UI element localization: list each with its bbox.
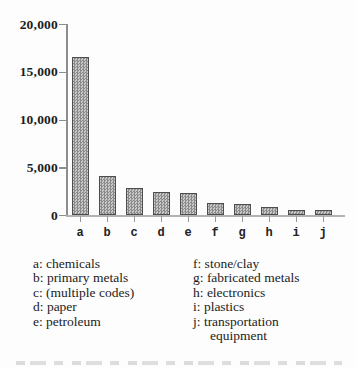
x-tick-d xyxy=(161,216,162,222)
y-tick-label-1: 5,000 xyxy=(0,160,58,175)
x-tick-a xyxy=(80,216,81,222)
x-category-label-c: c xyxy=(124,226,144,240)
x-category-label-d: d xyxy=(151,226,171,240)
bar-e xyxy=(180,193,197,215)
x-tick-f xyxy=(215,216,216,222)
legend-column-left: a: chemicals b: primary metals c: (multi… xyxy=(33,257,134,329)
x-tick-i xyxy=(296,216,297,222)
y-tick-2 xyxy=(59,120,66,121)
y-tick-1 xyxy=(59,167,66,168)
x-tick-g xyxy=(242,216,243,222)
plot-area: abcdefghij xyxy=(66,24,345,215)
x-tick-c xyxy=(134,216,135,222)
x-tick-b xyxy=(107,216,108,222)
y-tick-label-0: 0 xyxy=(0,208,58,223)
bar-a xyxy=(72,57,89,215)
y-tick-label-2: 10,000 xyxy=(0,112,58,127)
y-tick-label-4: 20,000 xyxy=(0,17,58,32)
y-tick-label-3: 15,000 xyxy=(0,64,58,79)
legend-item-f: f: stone/clay xyxy=(193,257,299,271)
chart-area: 05,00010,00015,00020,000 abcdefghij xyxy=(0,0,356,252)
x-tick-j xyxy=(323,216,324,222)
bar-chart-figure: 05,00010,00015,00020,000 abcdefghij a: c… xyxy=(0,0,356,367)
bar-h xyxy=(261,207,278,215)
legend-item-b: b: primary metals xyxy=(33,271,134,285)
x-category-label-e: e xyxy=(178,226,198,240)
x-category-label-b: b xyxy=(97,226,117,240)
bar-d xyxy=(153,192,170,215)
x-category-label-h: h xyxy=(259,226,279,240)
x-category-label-f: f xyxy=(205,226,225,240)
cutoff-caption-fragment xyxy=(16,361,342,365)
y-tick-3 xyxy=(59,72,66,73)
legend-column-right: f: stone/clay g: fabricated metals h: el… xyxy=(193,257,299,343)
y-axis-line xyxy=(66,24,68,216)
bar-j xyxy=(315,210,332,215)
bar-b xyxy=(99,176,116,215)
bar-g xyxy=(234,204,251,215)
x-tick-e xyxy=(188,216,189,222)
x-category-label-g: g xyxy=(232,226,252,240)
x-category-label-i: i xyxy=(286,226,306,240)
legend-item-i: i: plastics xyxy=(193,300,299,314)
x-category-label-a: a xyxy=(70,226,90,240)
legend-item-c: c: (multiple codes) xyxy=(33,286,134,300)
bar-c xyxy=(126,188,143,215)
legend-item-j-line2: equipment xyxy=(193,329,299,343)
legend-item-j: j: transportation xyxy=(193,315,299,329)
bar-f xyxy=(207,203,224,215)
legend-item-g: g: fabricated metals xyxy=(193,271,299,285)
x-tick-h xyxy=(269,216,270,222)
y-tick-0 xyxy=(59,215,66,216)
legend-item-e: e: petroleum xyxy=(33,315,134,329)
legend-item-d: d: paper xyxy=(33,300,134,314)
legend-item-a: a: chemicals xyxy=(33,257,134,271)
bar-i xyxy=(288,210,305,215)
legend-item-h: h: electronics xyxy=(193,286,299,300)
x-category-label-j: j xyxy=(313,226,333,240)
y-tick-4 xyxy=(59,24,66,25)
